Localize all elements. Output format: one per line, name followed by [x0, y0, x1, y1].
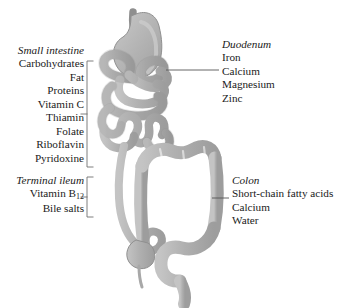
small-intestine-item-proteins: Proteins	[0, 84, 84, 97]
colon-item-calcium: Calcium	[232, 201, 343, 214]
duodenum-item-zinc: Zinc	[222, 92, 343, 105]
duodenum-title: Duodenum	[222, 38, 343, 51]
small-intestine-title: Small intestine	[0, 44, 84, 57]
small-intestine-item-vitamin-c: Vitamin C	[0, 98, 84, 111]
small-intestine-label-block: Small intestine Carbohydrates Fat Protei…	[0, 44, 84, 165]
terminal-ileum-item-vitamin-b12: Vitamin B12	[0, 187, 84, 201]
terminal-ileum-label-block: Terminal ileum Vitamin B12 Bile salts	[0, 174, 84, 215]
vitamin-b-subscript: 12	[76, 192, 84, 201]
rectum	[180, 281, 185, 304]
colon-item-short-chain-fatty-acids: Short-chain fatty acids	[232, 187, 343, 200]
cecum-group	[127, 240, 155, 287]
small-intestine-item-fat: Fat	[0, 71, 84, 84]
colon-item-water: Water	[232, 214, 343, 227]
sigmoid-colon	[161, 228, 214, 281]
duodenum-label-block: Duodenum Iron Calcium Magnesium Zinc	[222, 38, 343, 105]
small-intestine-item-thiamin: Thiamin	[0, 111, 84, 124]
duodenum-item-iron: Iron	[222, 51, 343, 64]
small-intestine-item-pyridoxine: Pyridoxine	[0, 152, 84, 165]
small-intestine-item-riboflavin: Riboflavin	[0, 138, 84, 151]
vitamin-b-base: Vitamin B	[30, 187, 76, 199]
small-intestine-item-folate: Folate	[0, 125, 84, 138]
small-intestine-item-carbohydrates: Carbohydrates	[0, 57, 84, 70]
duodenum-item-calcium: Calcium	[222, 65, 343, 78]
duodenum-item-magnesium: Magnesium	[222, 78, 343, 91]
colon-label-block: Colon Short-chain fatty acids Calcium Wa…	[232, 174, 343, 228]
colon-title: Colon	[232, 174, 343, 187]
descending-colon	[214, 158, 217, 228]
cecum	[127, 240, 155, 269]
ascending-colon	[141, 166, 143, 238]
terminal-ileum-item-bile-salts: Bile salts	[0, 202, 84, 215]
terminal-ileum-title: Terminal ileum	[0, 174, 84, 187]
